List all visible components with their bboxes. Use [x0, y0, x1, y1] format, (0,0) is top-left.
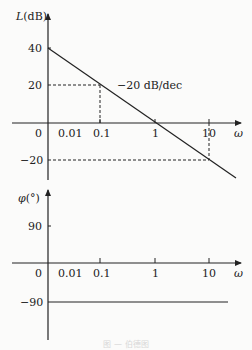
label-omega: ω: [234, 127, 243, 140]
label-neg90: −90: [20, 296, 43, 309]
label-origin: 0: [35, 127, 42, 140]
label-1: 1: [152, 127, 159, 140]
phase-label-1: 1: [152, 267, 159, 280]
figure-caption: 图 — 伯德图: [103, 339, 148, 349]
bode-plot: L(dB) 40 20 −20 0 0.01 0.1 1 10 ω −20 dB…: [0, 0, 252, 350]
phase-label-0.1: 0.1: [93, 267, 111, 280]
phase-label-10: 10: [202, 267, 216, 280]
label-neg20: −20: [20, 154, 43, 167]
magnitude-y-label: L(dB): [15, 10, 47, 23]
label-20: 20: [28, 79, 42, 92]
label-0.01: 0.01: [58, 127, 83, 140]
phase-label-origin: 0: [35, 267, 42, 280]
phase-label-0.01: 0.01: [58, 267, 83, 280]
slope-annotation: −20 dB/dec: [117, 79, 182, 92]
phase-y-label: φ(°): [18, 192, 40, 205]
magnitude-plot: L(dB) 40 20 −20 0 0.01 0.1 1 10 ω −20 dB…: [12, 10, 243, 180]
label-90: 90: [28, 220, 42, 233]
label-40: 40: [28, 42, 42, 55]
phase-plot: φ(°) 90 −90 0 0.01 0.1 1 10 ω: [12, 190, 243, 340]
magnitude-asymptote-line: [48, 48, 236, 178]
phase-label-omega: ω: [234, 267, 243, 280]
label-10: 10: [202, 127, 216, 140]
label-0.1: 0.1: [93, 127, 111, 140]
